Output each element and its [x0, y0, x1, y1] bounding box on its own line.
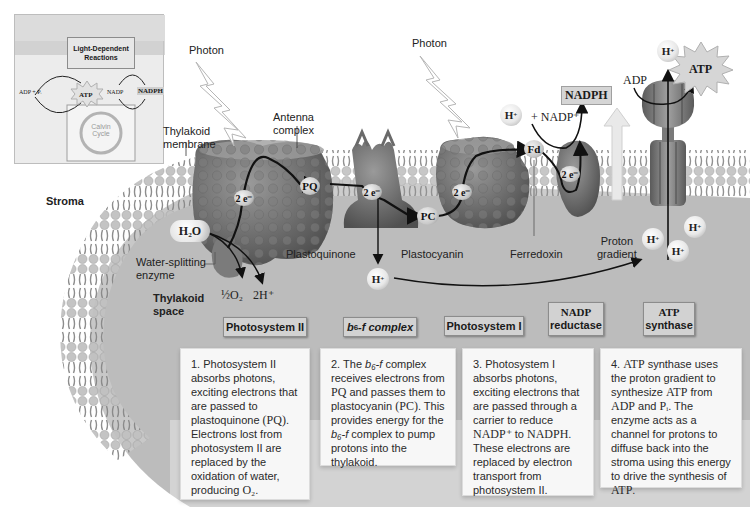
- tag-atp-synthase: ATP synthase: [643, 302, 695, 336]
- electron-pair-ps2: 2 e⁻: [234, 190, 254, 206]
- proton-atp-exit: H+: [657, 40, 679, 62]
- h2o-molecule: H₂O: [170, 220, 210, 242]
- step-2-description: 2. The b₆-f complex receives electrons f…: [320, 348, 456, 466]
- photon-bolt-2: [420, 56, 470, 138]
- tag-nadp-reductase: NADP reductase: [548, 302, 604, 336]
- plastocyanin-label: Plastocyanin: [401, 248, 463, 261]
- inset-nadp-label: NADP: [107, 89, 123, 95]
- photon-label-1: Photon: [189, 44, 224, 57]
- proton-lumen-b6f: H+: [367, 268, 389, 290]
- carrier-pq: PQ: [300, 177, 320, 195]
- half-o2-label: ½O₂: [221, 289, 243, 302]
- photon-label-2: Photon: [412, 37, 447, 50]
- inset-calvin-label: Calvin Cycle: [85, 123, 117, 137]
- step-1-description: 1. Photosystem II absorbs photons, excit…: [180, 348, 310, 500]
- tag-b6f-complex: b6-f complex: [343, 317, 417, 337]
- stroma-label: Stroma: [46, 195, 84, 208]
- tag-photosystem-ii: Photosystem II: [223, 317, 307, 337]
- antenna-complex-label: Antenna complex: [273, 111, 314, 137]
- proton-gradient-3: H+: [667, 240, 689, 262]
- carrier-fd: Fd: [524, 140, 544, 158]
- atp-product-label: ATP: [689, 62, 712, 77]
- nadph-product-label: NADPH: [561, 86, 612, 105]
- two-h-plus-label: 2H⁺: [253, 289, 274, 302]
- tag-photosystem-i: Photosystem I: [444, 316, 524, 336]
- carrier-pc: PC: [417, 207, 439, 225]
- step-4-description: 4. ATP synthase uses the proton gradient…: [600, 348, 742, 488]
- proton-gradient-1: H+: [642, 228, 664, 250]
- nadp-plus-label: + NADP⁺: [531, 111, 579, 124]
- step-3-description: 3. Photosystem I absorbs photons, exciti…: [462, 348, 594, 496]
- electron-pair-b6f: 2 e⁻: [362, 184, 382, 200]
- plastoquinone-label: Plastoquinone: [286, 248, 356, 261]
- proton-nadp: H+: [500, 104, 522, 126]
- water-splitting-enzyme-label: Water-splitting enzyme: [136, 256, 206, 282]
- inset-nadph-label: NADPH: [137, 87, 164, 95]
- adp-label: ADP: [623, 74, 647, 87]
- thylakoid-space-label: Thylakoid space: [153, 292, 204, 318]
- proton-gradient-label: Proton gradient: [597, 235, 637, 261]
- electron-pair-ps1: 2 e⁻: [452, 184, 472, 200]
- inset-header: Light-Dependent Reactions: [67, 37, 135, 69]
- thylakoid-membrane-label: Thylakoid membrane: [163, 125, 216, 151]
- proton-gradient-2: H+: [684, 216, 706, 238]
- inset-atp-label: ATP: [79, 91, 92, 99]
- ferredoxin-label: Ferredoxin: [510, 248, 563, 261]
- overview-inset: Light-Dependent Reactions ADP + Pᵢ ATP N…: [14, 14, 164, 164]
- electron-pair-ndr: 2 e⁻: [560, 166, 580, 182]
- inset-adp-label: ADP + Pᵢ: [19, 89, 41, 95]
